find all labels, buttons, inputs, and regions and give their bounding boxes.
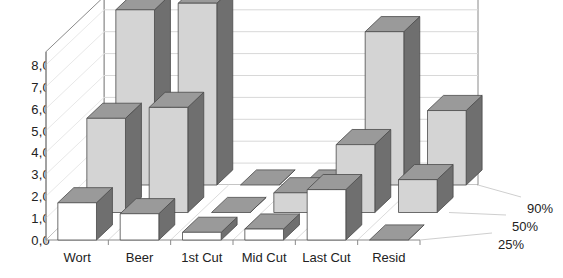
x-axis-category-label: Last Cut: [302, 250, 350, 265]
legend-label-90%: 90%: [527, 201, 553, 216]
x-axis-category-label: Mid Cut: [242, 250, 287, 265]
bar-last-cut-25%: [307, 175, 362, 240]
legend-leader-50%: [449, 213, 506, 216]
bar-front-face: [58, 203, 97, 240]
bar-front-face: [399, 180, 438, 213]
bar-side-face: [125, 103, 141, 212]
x-axis-category-label: Beer: [126, 250, 153, 265]
x-axis-category-label: Resid: [372, 250, 405, 265]
bar-beer-50%: [149, 92, 204, 212]
chart-plot-area: [0, 0, 563, 278]
bar-resid-50%: [399, 165, 454, 213]
bar-chart-3d: 0,01,02,03,04,05,06,07,08,0 WortBeer1st …: [0, 0, 563, 278]
bar-wort-25%: [58, 188, 113, 240]
bar-front-face: [149, 107, 188, 212]
legend-label-25%: 25%: [498, 237, 524, 252]
bar-front-face: [183, 232, 222, 240]
legend-leader-90%: [478, 185, 521, 197]
bar-front-face: [307, 190, 346, 240]
x-axis-category-label: 1st Cut: [181, 250, 222, 265]
bar-front-face: [120, 214, 159, 240]
bar-side-face: [217, 0, 233, 185]
bar-side-face: [404, 17, 420, 185]
bar-front-face: [245, 229, 284, 240]
bar-side-face: [466, 95, 482, 185]
bar-front-face: [274, 193, 313, 213]
legend-label-50%: 50%: [512, 219, 538, 234]
legend-leader-25%: [420, 233, 492, 240]
bar-side-face: [188, 92, 204, 212]
x-axis-category-label: Wort: [64, 250, 91, 265]
